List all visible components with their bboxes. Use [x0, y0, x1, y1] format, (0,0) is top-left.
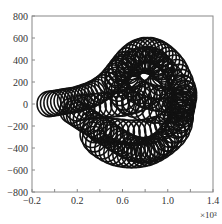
x-tick-label: 0.2	[71, 195, 84, 206]
x-tick-label: 0.6	[116, 195, 129, 206]
y-tick-label: 400	[13, 55, 28, 66]
y-tick-label: 0	[23, 99, 28, 110]
y-tick-label: −600	[7, 165, 28, 176]
y-tick-label: 800	[13, 11, 28, 22]
y-tick-label: −400	[7, 143, 28, 154]
x-axis-multiplier-label: ×10³	[200, 210, 217, 220]
circle-trajectory-chart: 8006004002000−200−400−600−800 −0.20.20.6…	[0, 0, 222, 224]
y-tick-label: −200	[7, 121, 28, 132]
data-circles	[37, 37, 197, 167]
x-tick-label: 1.4	[207, 195, 220, 206]
x-tick-label: 1.0	[162, 195, 175, 206]
y-tick-label: 200	[13, 77, 28, 88]
y-axis: 8006004002000−200−400−600−800	[7, 11, 35, 198]
x-tick-label: −0.2	[23, 195, 41, 206]
y-tick-label: 600	[13, 33, 28, 44]
